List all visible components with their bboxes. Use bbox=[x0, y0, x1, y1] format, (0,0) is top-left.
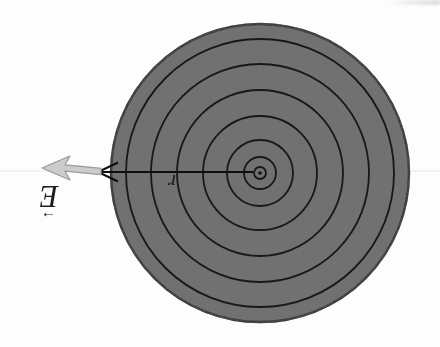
scan-smudge bbox=[388, 0, 440, 5]
radius-label: r bbox=[161, 171, 183, 192]
concentric-field-diagram bbox=[0, 0, 440, 347]
field-symbol: E bbox=[28, 181, 70, 212]
center-dot bbox=[258, 171, 262, 175]
vector-arrow-glyph: → bbox=[28, 213, 70, 221]
field-vector-label: → E bbox=[28, 181, 70, 221]
physics-figure: → E r bbox=[0, 0, 440, 347]
field-vector-arrow bbox=[42, 156, 101, 180]
